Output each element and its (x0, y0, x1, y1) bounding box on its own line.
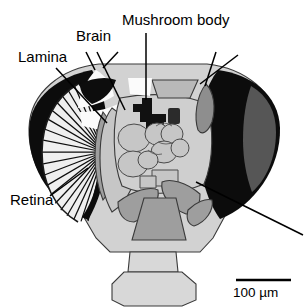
label-lamina: Lamina (18, 48, 68, 65)
figure-panel: Lamina Brain Mushroom body Retina 100 µm (0, 0, 305, 308)
dorsal-air-sac (128, 78, 152, 96)
label-mushroom-body: Mushroom body (122, 11, 230, 28)
head-section-diagram: Lamina Brain Mushroom body Retina 100 µm (0, 0, 305, 308)
neck (128, 252, 178, 272)
label-brain: Brain (76, 27, 111, 44)
brain-dorsal-wedge (152, 80, 198, 98)
proboscis (112, 272, 196, 306)
label-retina: Retina (10, 191, 54, 208)
scale-bar-label: 100 µm (233, 285, 278, 300)
